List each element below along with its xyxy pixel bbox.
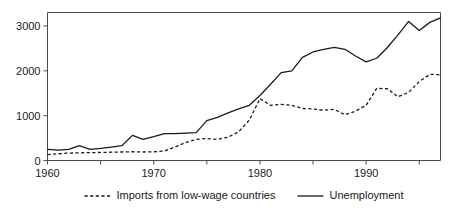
data-series [48,18,441,155]
y-tick-label: 2000 [16,65,40,77]
line-chart: 0100020003000 1960197019801990 Imports f… [0,0,455,212]
legend-label: Unemployment [329,189,403,201]
x-tick-label: 1990 [354,167,378,179]
chart-legend: Imports from low-wage countriesUnemploym… [85,189,404,201]
y-tick-label: 0 [34,155,40,167]
x-axis-ticks: 1960197019801990 [35,161,419,179]
x-tick-label: 1970 [141,167,165,179]
series-line-1 [48,74,441,154]
legend-label: Imports from low-wage countries [117,189,276,201]
plot-frame [48,13,441,161]
x-tick-label: 1960 [35,167,59,179]
y-tick-label: 1000 [16,110,40,122]
y-axis-ticks: 0100020003000 [16,20,47,167]
chart-figure: 0100020003000 1960197019801990 Imports f… [0,0,455,212]
y-tick-label: 3000 [16,20,40,32]
x-tick-label: 1980 [248,167,272,179]
plot-border [48,13,441,161]
series-line-2 [48,18,441,150]
